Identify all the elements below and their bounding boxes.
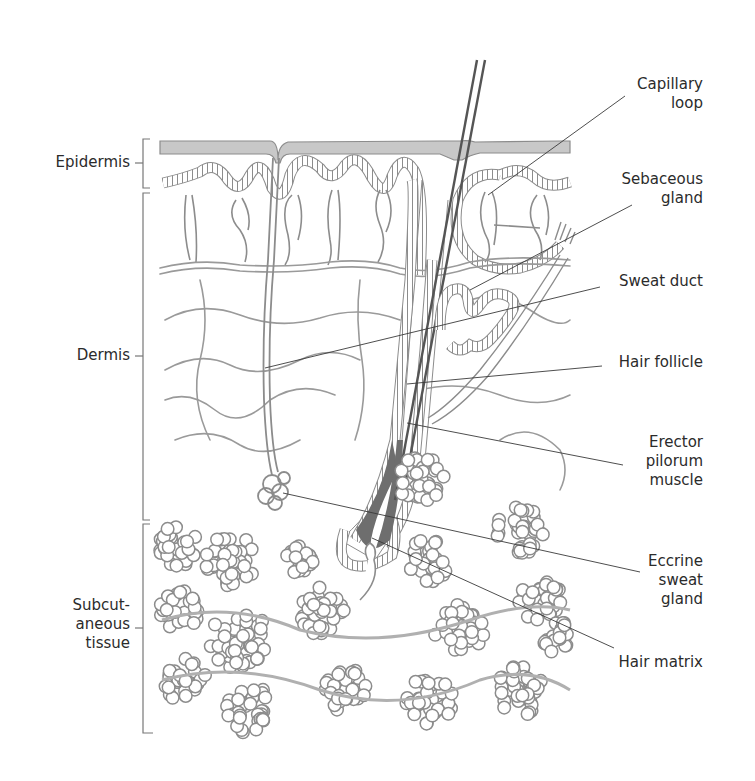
layer-brackets	[135, 139, 153, 733]
label-sweat-duct: Sweat duct	[619, 272, 703, 291]
label-hair-matrix: Hair matrix	[619, 653, 703, 672]
epidermis-bracket	[143, 139, 150, 188]
leader-hair-matrix	[372, 538, 614, 648]
capillary-loops	[185, 190, 549, 265]
leader-sebaceous-gland	[470, 205, 632, 290]
label-subcutaneous-tissue: Subcut- aneous tissue	[72, 596, 130, 653]
label-dermis: Dermis	[77, 346, 130, 365]
label-erector-pilorum-muscle: Erector pilorum muscle	[646, 433, 703, 490]
sweat-duct-structure	[264, 158, 280, 475]
label-capillary-loop: Capillary loop	[637, 75, 703, 113]
label-eccrine-sweat-gland: Eccrine sweat gland	[648, 552, 703, 609]
label-sebaceous-gland: Sebaceous gland	[622, 170, 703, 208]
leader-eccrine-gland	[283, 493, 640, 572]
label-hair-follicle: Hair follicle	[619, 353, 703, 372]
label-epidermis: Epidermis	[56, 153, 130, 172]
dermis-bracket	[143, 193, 150, 520]
subcutaneous-bracket	[143, 524, 153, 733]
leader-lines	[265, 96, 640, 648]
leader-hair-follicle	[407, 366, 602, 384]
eccrine-gland-structure	[258, 472, 290, 510]
